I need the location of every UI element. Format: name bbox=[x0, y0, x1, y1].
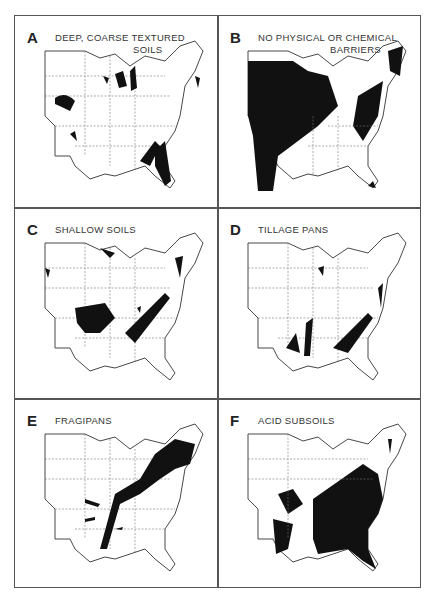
panel-letter: B bbox=[230, 29, 241, 46]
panel-title-line2: BARRIERS bbox=[330, 44, 381, 55]
panel-f: F ACID SUBSOILS bbox=[218, 399, 420, 590]
panel-c: C SHALLOW SOILS bbox=[15, 208, 217, 399]
us-map-east bbox=[15, 399, 217, 590]
us-map-east bbox=[218, 208, 420, 399]
panel-letter: A bbox=[27, 29, 38, 46]
panel-letter: E bbox=[27, 412, 37, 429]
panel-d: D TILLAGE PANS bbox=[218, 208, 420, 399]
panel-title: SHALLOW SOILS bbox=[55, 224, 136, 235]
panel-a: A DEEP, COARSE TEXTURED SOILS bbox=[15, 16, 217, 207]
panel-title: TILLAGE PANS bbox=[258, 224, 328, 235]
panel-letter: D bbox=[230, 221, 241, 238]
panel-title: NO PHYSICAL OR CHEMICAL bbox=[258, 32, 397, 43]
figure-grid: A DEEP, COARSE TEXTURED SOILS B NO PHYSI… bbox=[14, 15, 421, 588]
us-map-east bbox=[15, 208, 217, 399]
panel-title: FRAGIPANS bbox=[55, 415, 112, 426]
us-map-east bbox=[15, 16, 217, 207]
panel-letter: C bbox=[27, 221, 38, 238]
panel-letter: F bbox=[230, 412, 239, 429]
panel-title-line2: SOILS bbox=[133, 44, 163, 55]
panel-title: ACID SUBSOILS bbox=[258, 415, 335, 426]
panel-title: DEEP, COARSE TEXTURED bbox=[55, 32, 185, 43]
panel-b: B NO PHYSICAL OR CHEMICAL BARRIERS bbox=[218, 16, 420, 207]
us-map-east bbox=[218, 16, 420, 207]
panel-e: E FRAGIPANS bbox=[15, 399, 217, 590]
us-map-east bbox=[218, 399, 420, 590]
